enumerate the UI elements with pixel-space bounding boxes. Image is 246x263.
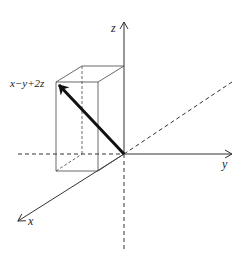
z-axis-label: z bbox=[110, 21, 116, 35]
vector-arrow bbox=[59, 85, 124, 154]
x-axis-label: x bbox=[27, 214, 34, 228]
x-axis bbox=[18, 82, 232, 221]
vector-label: x−y+2z bbox=[9, 77, 45, 89]
vector-diagram: z y x x−y+2z bbox=[0, 0, 246, 263]
y-axis-label: y bbox=[221, 157, 228, 171]
